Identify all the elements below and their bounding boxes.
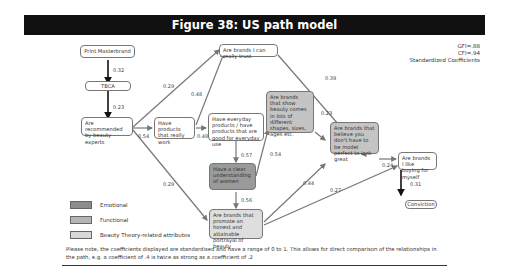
node-products-work: Have products that really work	[154, 117, 195, 139]
node-conviction: Conviction	[405, 200, 437, 209]
node-model-perfect: Are brands that believe you don't have t…	[330, 122, 379, 154]
gfi-value: GFI=.88	[458, 43, 480, 49]
coef-rec-honest: 0.29	[163, 181, 174, 187]
node-tbca: TBCA	[85, 81, 131, 91]
coef-rec-products: 0.54	[138, 133, 149, 139]
node-everyday: Have everyday products / have products t…	[208, 113, 264, 141]
coef-products-trust: 0.48	[191, 91, 202, 97]
footnote: Please note, the coefficients displayed …	[66, 245, 446, 261]
coef-products-everyday: 0.48	[197, 133, 208, 139]
legend-emotional: Emotional	[70, 200, 128, 210]
swatch-beauty-theory	[70, 231, 92, 239]
node-recommended: Are recommended by beauty experts	[81, 117, 133, 136]
legend-label: Beauty Theory-related attributes	[100, 232, 190, 238]
coef-pm-tbca: 0.32	[113, 67, 124, 73]
coef-buying-conviction: 0.31	[410, 181, 421, 187]
coef-rec-trust: 0.29	[163, 83, 174, 89]
legend-functional: Functional	[70, 215, 128, 225]
node-trust: Are brands I can really trust	[219, 44, 278, 57]
bottom-rule	[62, 265, 447, 266]
coef-tbca-rec: 0.23	[113, 104, 124, 110]
coef-model-buying: 0.24	[382, 162, 393, 168]
node-print-masterbrand: Print Masterbrand	[80, 45, 135, 58]
coef-honest-model: 0.44	[303, 180, 314, 186]
legend-label: Functional	[100, 217, 128, 223]
node-buying: Are brands I like buying for myself	[398, 152, 437, 170]
node-honest: Are brands that promote an honest and at…	[209, 209, 263, 239]
swatch-emotional	[70, 201, 92, 209]
coef-everyday-understanding: 0.57	[241, 152, 252, 158]
node-beauty-shapes: Are brands that show beauty comes in lot…	[266, 91, 314, 133]
standardized-label: Standardized Coefficients	[410, 57, 480, 63]
coef-trust-buying: 0.39	[325, 75, 336, 81]
coef-understanding-shapes: 0.54	[270, 151, 281, 157]
legend-label: Emotional	[100, 202, 128, 208]
coef-honest-buying: 0.27	[330, 187, 341, 193]
legend-beauty-theory: Beauty Theory-related attributes	[70, 230, 190, 240]
node-understanding: Have a clear understanding of women	[209, 163, 256, 190]
coef-shapes-model: 0.23	[321, 110, 332, 116]
swatch-functional	[70, 216, 92, 224]
cfi-value: CFI=.94	[458, 50, 480, 56]
coef-understanding-honest: 0.56	[241, 197, 252, 203]
